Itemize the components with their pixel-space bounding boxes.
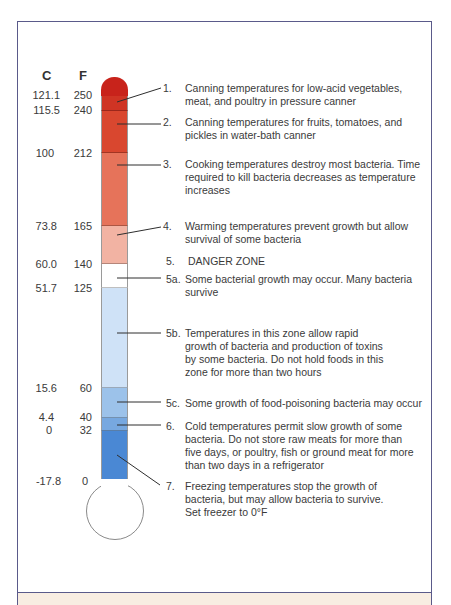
fahrenheit-tick: 140 xyxy=(62,258,92,270)
note-text: Cooking temperatures destroy most bacter… xyxy=(163,158,425,197)
note-number: 5c. xyxy=(166,397,186,410)
celsius-tick: 121.1 xyxy=(20,89,60,101)
note-number: 1. xyxy=(163,82,183,95)
note-number: 4. xyxy=(163,220,183,233)
note-text: Warming temperatures prevent growth but … xyxy=(163,220,425,246)
celsius-tick: 73.8 xyxy=(17,220,57,232)
fahrenheit-tick: 212 xyxy=(62,147,92,159)
fahrenheit-tick: 32 xyxy=(62,424,92,436)
zone-1-segment xyxy=(101,96,128,111)
note-text: Freezing temperatures stop the growth of… xyxy=(166,480,385,519)
celsius-tick: 115.5 xyxy=(20,104,60,116)
fahrenheit-tick: 240 xyxy=(62,104,92,116)
celsius-tick: 15.6 xyxy=(17,382,57,394)
note-6: 6. Cold temperatures permit slow growth … xyxy=(166,420,417,472)
note-number: 3. xyxy=(163,158,183,171)
note-1: 1. Canning temperatures for low-acid veg… xyxy=(163,82,425,108)
note-number: 6. xyxy=(166,420,186,433)
note-text: Some bacterial growth may occur. Many ba… xyxy=(166,273,425,299)
bulb-neck xyxy=(101,479,128,487)
note-text: DANGER ZONE xyxy=(166,255,428,268)
note-text: Cold temperatures permit slow growth of … xyxy=(166,420,417,472)
note-number: 5. xyxy=(166,255,186,268)
note-number: 5a. xyxy=(166,273,186,286)
fahrenheit-tick: 165 xyxy=(62,220,92,232)
fahrenheit-tick: 40 xyxy=(62,411,92,423)
note-number: 7. xyxy=(166,480,186,493)
fahrenheit-tick: 0 xyxy=(58,475,88,487)
fahrenheit-tick: 250 xyxy=(62,89,92,101)
note-text: Temperatures in this zone allow rapid gr… xyxy=(166,327,385,379)
zone-5c-segment xyxy=(101,388,128,418)
note-7: 7. Freezing temperatures stop the growth… xyxy=(166,480,385,519)
note-text: Canning temperatures for low-acid vegeta… xyxy=(163,82,425,108)
note-text: Some growth of food-poisoning bacteria m… xyxy=(166,397,435,410)
thermometer-bulb xyxy=(86,482,144,540)
zone-3-segment xyxy=(101,153,128,226)
fahrenheit-header: F xyxy=(79,68,87,83)
zone-5b-segment xyxy=(101,288,128,388)
note-5a: 5a. Some bacterial growth may occur. Man… xyxy=(166,273,425,299)
celsius-tick: -17.8 xyxy=(21,475,61,487)
celsius-tick: 51.7 xyxy=(17,282,57,294)
note-5c: 5c. Some growth of food-poisoning bacter… xyxy=(166,397,435,410)
celsius-tick: 100 xyxy=(14,147,54,159)
zone-2-segment xyxy=(101,111,128,153)
celsius-tick: 60.0 xyxy=(17,258,57,270)
note-5b: 5b. Temperatures in this zone allow rapi… xyxy=(166,327,385,379)
note-text: Canning temperatures for fruits, tomatoe… xyxy=(163,116,425,142)
celsius-header: C xyxy=(42,68,51,83)
note-3: 3. Cooking temperatures destroy most bac… xyxy=(163,158,425,197)
celsius-tick: 4.4 xyxy=(14,411,54,423)
note-2: 2. Canning temperatures for fruits, toma… xyxy=(163,116,425,142)
note-4: 4. Warming temperatures prevent growth b… xyxy=(163,220,425,246)
zone-4-segment xyxy=(101,226,128,264)
thermometer-cap xyxy=(101,77,128,96)
fahrenheit-tick: 125 xyxy=(62,282,92,294)
note-number: 5b. xyxy=(166,327,186,340)
fahrenheit-tick: 60 xyxy=(62,382,92,394)
zone-6-segment xyxy=(101,418,128,431)
footer-strip xyxy=(17,593,432,605)
note-5-danger-zone: 5. DANGER ZONE xyxy=(166,255,428,268)
note-number: 2. xyxy=(163,116,183,129)
celsius-tick: 0 xyxy=(12,424,52,436)
zone-7-segment xyxy=(101,431,128,481)
zone-5a-segment xyxy=(101,264,128,288)
